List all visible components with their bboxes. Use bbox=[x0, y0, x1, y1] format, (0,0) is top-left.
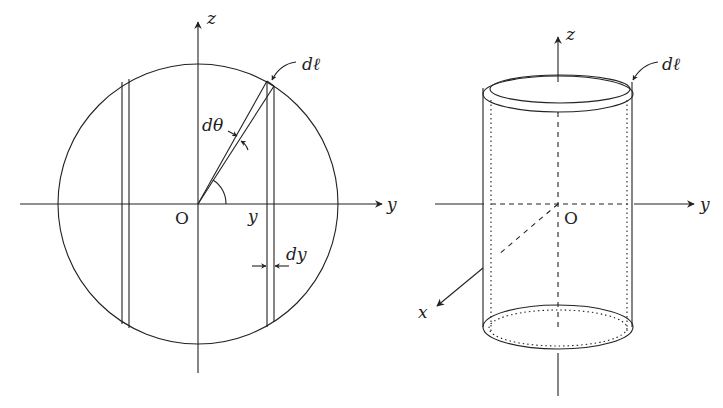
bottom-rim-front bbox=[483, 327, 633, 349]
y-label-right: y bbox=[699, 194, 710, 214]
y-position-label: y bbox=[247, 206, 258, 226]
x-axis-right-outer bbox=[437, 268, 483, 306]
origin-label-left: O bbox=[175, 208, 189, 228]
x-axis-right-inner bbox=[498, 204, 558, 255]
z-label-left: z bbox=[206, 8, 217, 28]
dl-segment bbox=[267, 81, 274, 86]
left-figure bbox=[20, 22, 382, 373]
dtheta-arrow-1 bbox=[228, 131, 237, 136]
origin-label-right: O bbox=[564, 208, 578, 228]
dy-label: dy bbox=[286, 244, 307, 264]
dl-leader-left bbox=[272, 62, 296, 80]
theta-arc bbox=[213, 180, 226, 204]
diagram-canvas: z y O y dy dθ dℓ z y x O dℓ bbox=[0, 0, 723, 408]
dl-leader-right bbox=[633, 62, 658, 80]
radius-line-1 bbox=[198, 81, 267, 204]
z-label-right: z bbox=[565, 24, 576, 44]
radius-line-2 bbox=[198, 86, 274, 204]
dtheta-arrow-2 bbox=[241, 141, 248, 150]
dl-label-left: dℓ bbox=[302, 54, 320, 74]
dtheta-label: dθ bbox=[202, 115, 223, 135]
dl-label-right: dℓ bbox=[662, 54, 680, 74]
top-rim-inner bbox=[490, 75, 630, 103]
x-label-right: x bbox=[418, 302, 428, 322]
y-label-left: y bbox=[386, 194, 397, 214]
